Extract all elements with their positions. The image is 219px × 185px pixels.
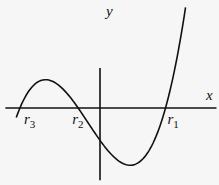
root-label-r3: r3	[24, 111, 36, 130]
cubic-curve	[16, 7, 185, 165]
plot-svg: x y r1r2r3	[0, 0, 219, 185]
root-subscript: 2	[78, 118, 84, 130]
cubic-roots-diagram: x y r1r2r3	[0, 0, 219, 185]
x-axis-label: x	[205, 87, 213, 103]
root-label-r1: r1	[168, 111, 179, 130]
y-axis-label: y	[104, 3, 113, 19]
root-subscript: 1	[173, 118, 179, 130]
root-labels: r1r2r3	[24, 111, 179, 130]
root-subscript: 3	[30, 118, 36, 130]
